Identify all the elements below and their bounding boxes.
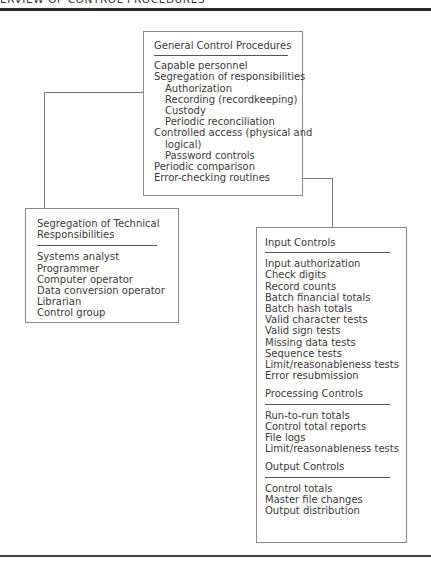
input-control-item: Input authorization <box>265 258 398 269</box>
general-item: Error-checking routines <box>154 172 292 183</box>
input-controls-divider <box>265 252 390 253</box>
general-subitem: Custody <box>154 105 292 116</box>
general-item: Controlled access (physical and <box>154 127 292 138</box>
segregation-item: Programmer <box>37 263 167 274</box>
general-item: Capable personnel <box>154 60 292 71</box>
input-control-item: Check digits <box>265 269 398 280</box>
input-control-item: Missing data tests <box>265 337 398 348</box>
processing-controls-section: Processing Controls Run-to-run totals Co… <box>265 388 398 454</box>
output-controls-divider <box>265 477 390 478</box>
output-control-item: Output distribution <box>265 505 398 516</box>
segregation-item: Data conversion operator <box>37 285 167 296</box>
processing-controls-title: Processing Controls <box>265 388 398 399</box>
segregation-box-title-line2: Responsibilities <box>37 229 167 240</box>
general-box-list: Capable personnel Segregation of respons… <box>154 60 292 183</box>
segregation-box-title-line1: Segregation of Technical <box>37 218 167 229</box>
application-controls-box: Input Controls Input authorization Check… <box>256 227 407 543</box>
top-rule <box>0 8 431 11</box>
input-control-item: Valid character tests <box>265 314 398 325</box>
input-control-item: Record counts <box>265 281 398 292</box>
connector-left-horizontal <box>44 92 144 93</box>
segregation-box-divider <box>37 245 157 246</box>
input-control-item: Limit/reasonableness tests <box>265 359 398 370</box>
segregation-item: Computer operator <box>37 274 167 285</box>
general-box-divider <box>154 55 288 56</box>
general-subitem: Password controls <box>154 150 292 161</box>
segregation-box-list: Systems analyst Programmer Computer oper… <box>37 251 167 318</box>
segregation-item: Systems analyst <box>37 251 167 262</box>
general-subitem: Recording (recordkeeping) <box>154 94 292 105</box>
input-controls-list: Input authorization Check digits Record … <box>265 258 398 381</box>
processing-control-item: Limit/reasonableness tests <box>265 443 398 454</box>
input-control-item: Valid sign tests <box>265 325 398 336</box>
general-item: Segregation of responsibilities <box>154 71 292 82</box>
input-controls-title: Input Controls <box>265 237 398 248</box>
segregation-item: Control group <box>37 307 167 318</box>
connector-right-vertical <box>332 178 333 228</box>
bottom-rule <box>0 555 431 557</box>
input-control-item: Batch financial totals <box>265 292 398 303</box>
general-control-procedures-box: General Control Procedures Capable perso… <box>143 31 303 196</box>
processing-controls-divider <box>265 404 390 405</box>
output-control-item: Master file changes <box>265 494 398 505</box>
processing-control-item: Control total reports <box>265 421 398 432</box>
output-controls-list: Control totals Master file changes Outpu… <box>265 483 398 517</box>
output-controls-section: Output Controls Control totals Master fi… <box>265 461 398 516</box>
input-control-item: Batch hash totals <box>265 303 398 314</box>
output-control-item: Control totals <box>265 483 398 494</box>
processing-control-item: File logs <box>265 432 398 443</box>
processing-control-item: Run-to-run totals <box>265 410 398 421</box>
connector-left-vertical <box>44 92 45 209</box>
page-header-title: ERVIEW OF CONTROL PROCEDURES <box>0 0 205 5</box>
general-subitem: Authorization <box>154 83 292 94</box>
input-controls-section: Input Controls Input authorization Check… <box>265 237 398 381</box>
connector-right-horizontal <box>301 178 333 179</box>
general-item-continuation: logical) <box>154 139 292 150</box>
input-control-item: Sequence tests <box>265 348 398 359</box>
segregation-item: Librarian <box>37 296 167 307</box>
segregation-technical-responsibilities-box: Segregation of Technical Responsibilitie… <box>25 208 179 323</box>
processing-controls-list: Run-to-run totals Control total reports … <box>265 410 398 455</box>
output-controls-title: Output Controls <box>265 461 398 472</box>
general-subitem: Periodic reconciliation <box>154 116 292 127</box>
input-control-item: Error resubmission <box>265 370 398 381</box>
general-box-title: General Control Procedures <box>154 40 292 51</box>
general-item: Periodic comparison <box>154 161 292 172</box>
